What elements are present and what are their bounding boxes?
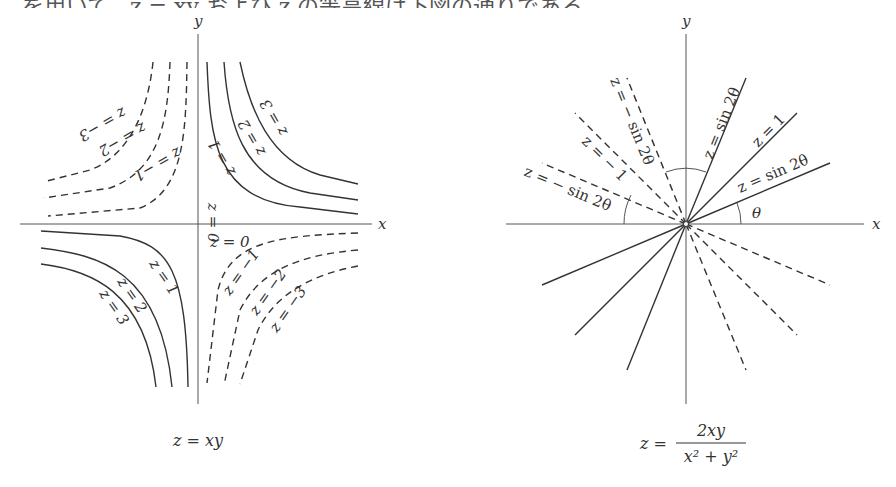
label-q1-z1: z = 1 bbox=[204, 136, 240, 180]
y-axis-label: y bbox=[681, 12, 691, 30]
y-axis-label: y bbox=[193, 12, 203, 30]
contour-q4-zm3 bbox=[240, 266, 358, 384]
contour-q1-z1 bbox=[207, 62, 358, 214]
label-z0-horizontal: z = 0 bbox=[209, 233, 250, 251]
ray-q4-mid bbox=[686, 224, 797, 335]
theta-arc-right bbox=[737, 203, 741, 224]
ray-q3-mid bbox=[575, 224, 686, 335]
left-plot: x y z = 0 z = 1 z = 2 z = 3 z = −1 z = −… bbox=[20, 12, 387, 450]
left-caption: z = xy bbox=[172, 431, 224, 450]
label-q3-z1: z = 1 bbox=[145, 255, 183, 299]
label-q1-shallow: z = sin 2θ bbox=[735, 151, 812, 197]
caption-numerator: 2xy bbox=[696, 421, 726, 440]
label-q2-shallow: z = − sin 2θ bbox=[521, 162, 613, 215]
caption-lhs: z = bbox=[639, 434, 667, 453]
label-q1-mid: z = 1 bbox=[748, 110, 789, 151]
label-q1-steep: z = sin 2θ bbox=[699, 85, 744, 162]
figure: x y z = 0 z = 1 z = 2 z = 3 z = −1 z = −… bbox=[0, 0, 896, 487]
label-q2-mid: z = − 1 bbox=[578, 132, 631, 185]
ray-q4-shallow bbox=[686, 224, 830, 285]
label-q2-zm1: z = −1 bbox=[130, 143, 185, 185]
x-axis-label: x bbox=[872, 215, 881, 233]
label-q1-z3: z = 3 bbox=[256, 96, 292, 140]
caption-denominator: x² + y² bbox=[684, 447, 738, 466]
theta-label: θ bbox=[752, 204, 761, 222]
ray-q4-steep bbox=[686, 224, 746, 370]
contour-q3-z3 bbox=[41, 264, 156, 387]
right-plot: x y θ z = sin 2θ z = 1 z = sin 2θ z = − … bbox=[506, 12, 881, 466]
x-axis-label: x bbox=[378, 215, 387, 233]
right-caption: z = 2xy x² + y² bbox=[639, 421, 746, 466]
origin-point bbox=[684, 222, 689, 227]
